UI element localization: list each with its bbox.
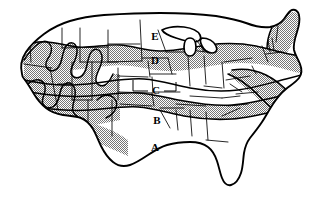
us-climate-zone-map: E D C B A — [0, 0, 315, 210]
zone-label-c: C — [152, 84, 160, 96]
zone-label-a: A — [151, 141, 159, 153]
zone-label-d: D — [151, 54, 159, 66]
zone-label-e: E — [151, 30, 158, 42]
map-figure: E D C B A — [0, 0, 315, 210]
zone-label-b: B — [153, 114, 161, 126]
lake-michigan-icon — [184, 38, 196, 56]
